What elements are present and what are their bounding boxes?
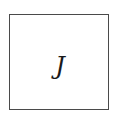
square-node: J bbox=[9, 14, 109, 110]
node-label: J bbox=[10, 15, 108, 109]
diagram-canvas: J bbox=[0, 0, 117, 117]
